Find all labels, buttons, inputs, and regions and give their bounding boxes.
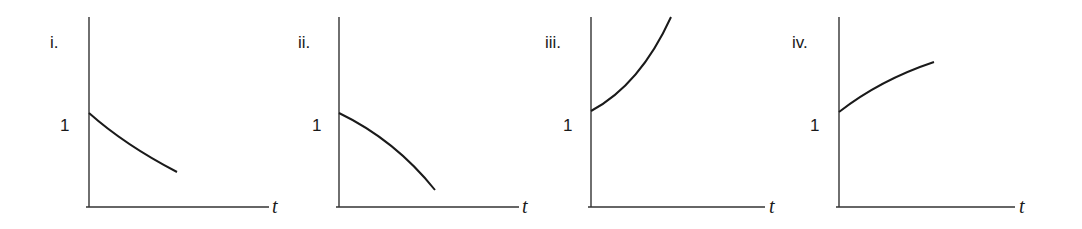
y-tick-label: 1	[60, 116, 69, 135]
panel-label: iii.	[545, 33, 561, 52]
panel-label: iv.	[792, 33, 808, 52]
panel-iv: iv. 1 t	[792, 17, 1025, 217]
x-axis-label: t	[522, 195, 528, 217]
panel-ii: ii. 1 t	[298, 17, 528, 217]
figure: i. 1 t ii. 1 t iii. 1 t iv. 1 t	[0, 0, 1082, 229]
y-tick-label: 1	[810, 116, 819, 135]
panel-i: i. 1 t	[50, 17, 278, 217]
x-axis-label: t	[1019, 195, 1025, 217]
panel-label: ii.	[298, 33, 310, 52]
panel-label: i.	[50, 33, 59, 52]
curve	[839, 62, 934, 112]
curve	[591, 17, 671, 111]
curve	[89, 113, 177, 172]
x-axis-label: t	[769, 195, 775, 217]
y-tick-label: 1	[563, 116, 572, 135]
curve	[339, 113, 435, 190]
y-tick-label: 1	[312, 116, 321, 135]
panel-iii: iii. 1 t	[545, 17, 775, 217]
x-axis-label: t	[272, 195, 278, 217]
